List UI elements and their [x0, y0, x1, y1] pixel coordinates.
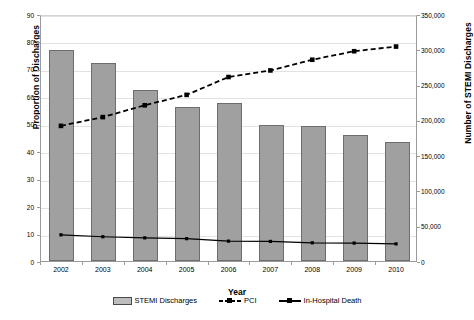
y-tickmark-right [417, 262, 420, 263]
y-tick-right-200,000: 200,000 [421, 117, 469, 124]
legend-item: PCI [219, 296, 257, 305]
y-tick-right-0: 0 [421, 259, 469, 266]
legend-label: STEMI Discharges [135, 296, 198, 305]
x-tick-2009: 2009 [331, 266, 377, 274]
gridline [41, 43, 416, 44]
y-tick-left-90: 90 [4, 12, 34, 19]
x-tickmark [124, 262, 125, 265]
y-tick-left-10: 10 [4, 231, 34, 238]
plot-area [40, 15, 417, 262]
x-tick-2003: 2003 [80, 266, 126, 274]
y-tick-right-300,000: 300,000 [421, 47, 469, 54]
y-tickmark-right [417, 15, 420, 16]
y-tickmark-right [417, 156, 420, 157]
y-tick-left-0: 0 [4, 259, 34, 266]
y-tick-left-20: 20 [4, 204, 34, 211]
bar-2010 [385, 142, 410, 261]
bar-2008 [301, 126, 326, 261]
x-tickmark [40, 262, 41, 265]
y-tickmark-right [417, 191, 420, 192]
y-tick-right-150,000: 150,000 [421, 153, 469, 160]
x-tick-2002: 2002 [38, 266, 84, 274]
y-tickmark-right [417, 227, 420, 228]
y-tickmark-right [417, 86, 420, 87]
bar-2006 [217, 103, 242, 261]
y-tick-right-100,000: 100,000 [421, 188, 469, 195]
y-tick-right-50,000: 50,000 [421, 223, 469, 230]
x-tick-2010: 2010 [373, 266, 419, 274]
y-tick-right-350,000: 350,000 [421, 12, 469, 19]
y-tick-left-70: 70 [4, 66, 34, 73]
y-tick-left-50: 50 [4, 121, 34, 128]
bar-2003 [91, 63, 116, 261]
gridline [41, 16, 416, 17]
x-tick-2005: 2005 [164, 266, 210, 274]
bar-2002 [49, 50, 74, 261]
x-tickmark [166, 262, 167, 265]
x-tickmark [333, 262, 334, 265]
x-tickmark [291, 262, 292, 265]
bar-2009 [343, 135, 368, 261]
y-tick-left-40: 40 [4, 149, 34, 156]
y-tickmark-left [37, 97, 40, 98]
x-tick-2004: 2004 [122, 266, 168, 274]
y-tickmark-left [37, 42, 40, 43]
x-tick-2008: 2008 [289, 266, 335, 274]
y-tick-right-250,000: 250,000 [421, 82, 469, 89]
legend-label: In-Hospital Death [304, 296, 362, 305]
x-tickmark [82, 262, 83, 265]
y-tick-left-30: 30 [4, 176, 34, 183]
y-tickmark-left [37, 15, 40, 16]
y-tickmark-left [37, 70, 40, 71]
x-tickmark [375, 262, 376, 265]
y-tick-left-80: 80 [4, 39, 34, 46]
legend-solid-line-icon [279, 297, 301, 304]
x-tick-2006: 2006 [206, 266, 252, 274]
legend-item: STEMI Discharges [113, 296, 198, 305]
legend-dashed-line-icon [219, 297, 241, 304]
y-tickmark-left [37, 235, 40, 236]
legend-item: In-Hospital Death [279, 296, 362, 305]
legend-bar-swatch-icon [113, 297, 132, 305]
chart-figure: Proportion of Discharges Number of STEMI… [0, 0, 474, 320]
y-tickmark-left [37, 125, 40, 126]
x-tickmark [208, 262, 209, 265]
y-tickmark-left [37, 180, 40, 181]
x-tick-2007: 2007 [247, 266, 293, 274]
y-tick-left-60: 60 [4, 94, 34, 101]
bar-2007 [259, 125, 284, 261]
bar-2005 [175, 107, 200, 261]
x-tickmark [249, 262, 250, 265]
y-tickmark-left [37, 152, 40, 153]
chart-legend: STEMI DischargesPCIIn-Hospital Death [0, 296, 474, 305]
y-tickmark-right [417, 121, 420, 122]
y-tickmark-right [417, 50, 420, 51]
y-tickmark-left [37, 207, 40, 208]
bar-2004 [133, 90, 158, 261]
legend-label: PCI [244, 296, 257, 305]
